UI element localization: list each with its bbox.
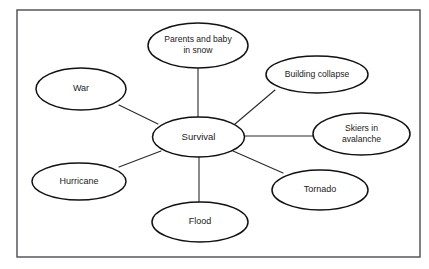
node-label-parents-and-baby-in-snow-line2: in snow bbox=[183, 45, 213, 55]
node-flood[interactable]: Flood bbox=[152, 202, 248, 242]
diagram-canvas: Parents and babyin snowBuilding collapse… bbox=[0, 0, 429, 269]
node-label-skiers-in-avalanche-line1: Skiers in bbox=[345, 123, 378, 133]
node-building-collapse[interactable]: Building collapse bbox=[266, 56, 368, 93]
node-label-survival: Survival bbox=[182, 131, 216, 142]
node-label-building-collapse: Building collapse bbox=[285, 69, 350, 79]
node-label-parents-and-baby-in-snow-line1: Parents and baby bbox=[164, 34, 232, 44]
node-label-tornado: Tornado bbox=[304, 184, 337, 194]
node-survival[interactable]: Survival bbox=[153, 117, 245, 157]
node-skiers-in-avalanche[interactable]: Skiers inavalanche bbox=[313, 113, 410, 155]
node-label-flood: Flood bbox=[189, 216, 212, 226]
node-label-war: War bbox=[73, 83, 89, 93]
node-hurricane[interactable]: Hurricane bbox=[32, 163, 126, 200]
mind-map-diagram: Parents and babyin snowBuilding collapse… bbox=[0, 0, 429, 269]
node-tornado[interactable]: Tornado bbox=[272, 170, 368, 210]
node-label-skiers-in-avalanche-line2: avalanche bbox=[342, 134, 381, 144]
node-label-hurricane: Hurricane bbox=[59, 176, 98, 186]
node-parents-and-baby-in-snow[interactable]: Parents and babyin snow bbox=[148, 23, 248, 68]
node-war[interactable]: War bbox=[36, 68, 126, 110]
